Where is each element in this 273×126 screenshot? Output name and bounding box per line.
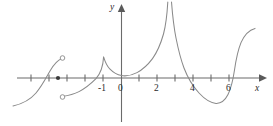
- axis-point-marker: [56, 76, 60, 80]
- x-tick-label-2: 2: [154, 84, 159, 94]
- curve-right-branch: [172, 2, 256, 103]
- x-tick-label-0: 0: [118, 84, 123, 94]
- x-tick-label-minus-1: -1: [98, 84, 106, 94]
- x-tick-label-4: 4: [190, 84, 195, 94]
- x-axis-label: x: [255, 84, 259, 94]
- open-circle-lower: [60, 95, 65, 100]
- x-tick-label-6: 6: [226, 84, 231, 94]
- curve-left-branch: [13, 59, 62, 107]
- open-circle-upper: [60, 56, 65, 61]
- y-axis: [118, 4, 125, 122]
- curve-middle-branch: [62, 2, 168, 97]
- y-axis-label: y: [110, 3, 114, 13]
- graph-svg: [0, 0, 273, 126]
- figure-canvas: y x -1 0 2 4 6: [0, 0, 273, 126]
